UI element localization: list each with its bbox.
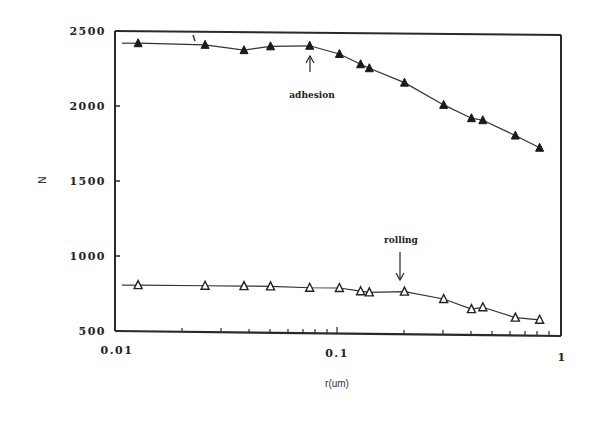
chart: 2500 2000 1500 1000 500 N 0.01 0.1 1 r(u… <box>0 0 595 424</box>
y-tick-label: 2000 <box>69 100 106 113</box>
triangle-marker-icon <box>365 64 373 72</box>
x-tick-label: 1 <box>557 351 566 364</box>
y-tick-label: 500 <box>79 325 106 338</box>
x-tick-label: 0.01 <box>101 344 134 357</box>
x-axis-title: r(um) <box>325 378 349 389</box>
annotation-adhesion: adhesion <box>289 56 335 100</box>
triangle-marker-icon <box>357 60 365 68</box>
triangle-marker-icon <box>440 100 448 108</box>
y-axis-title: N <box>36 176 47 183</box>
y-axis: 2500 2000 1500 1000 500 N <box>36 25 120 338</box>
annotation-label: adhesion <box>289 90 335 100</box>
y-tick-label: 1500 <box>69 175 106 188</box>
x-tick-label: 0.1 <box>325 347 349 360</box>
triangle-marker-icon <box>511 131 519 139</box>
annotation-label: rolling <box>384 235 419 245</box>
triangle-marker-icon <box>536 143 544 151</box>
triangle-marker-icon <box>479 303 487 311</box>
annotation-rolling: rolling <box>384 235 419 280</box>
y-tick-label: 2500 <box>69 25 106 38</box>
scan-mark <box>193 35 195 41</box>
series-layer <box>122 39 544 324</box>
y-tick-label: 1000 <box>69 250 106 263</box>
adhesion-line <box>138 43 540 148</box>
triangle-marker-icon <box>467 114 475 122</box>
